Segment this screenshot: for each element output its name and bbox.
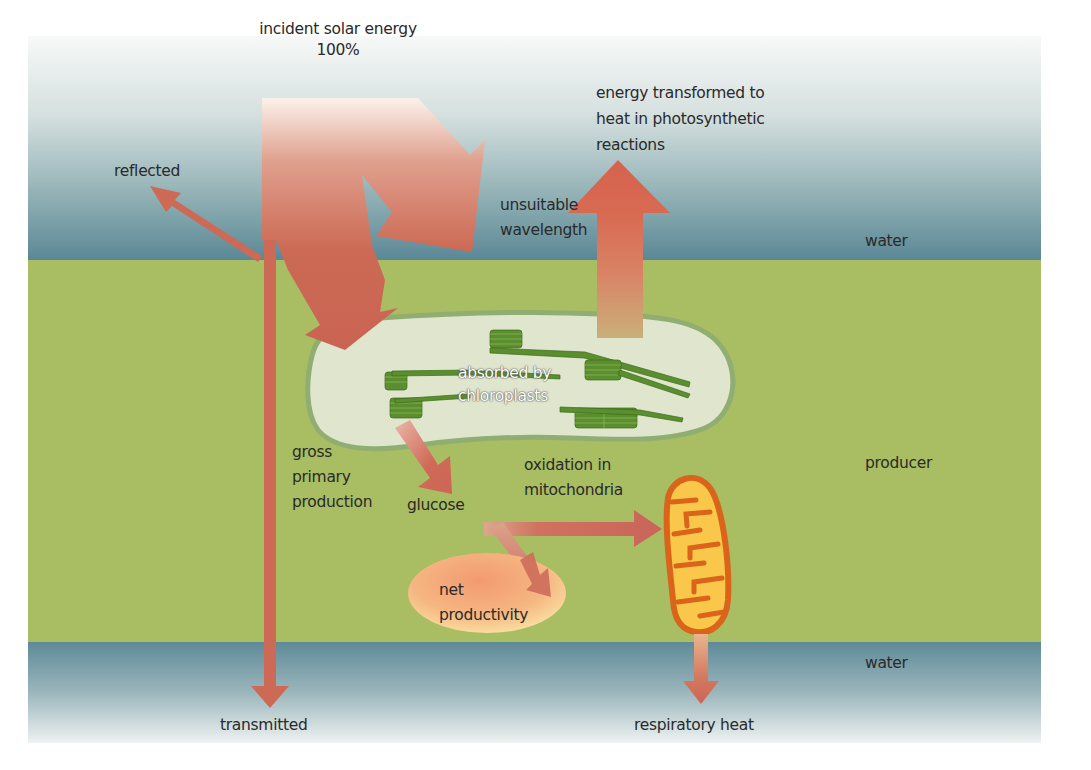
reflected-label: reflected (114, 162, 180, 181)
water-bottom-label: water (865, 654, 908, 673)
gross-label-line2: primary (292, 465, 372, 490)
glucose-label: glucose (407, 496, 465, 515)
oxidation-in-mitochondria-label: oxidation in mitochondria (524, 453, 623, 503)
transmitted-label: transmitted (220, 716, 307, 735)
absorbed-label-line2: chloroplasts (458, 385, 551, 408)
absorbed-by-chloroplasts-label: absorbed by chloroplasts (458, 362, 551, 408)
energy-flow-diagram: incident solar energy 100% reflected uns… (0, 0, 1091, 770)
unsuitable-wavelength-label: unsuitable wavelength (500, 193, 587, 243)
mitochondrion-illustration (667, 478, 729, 632)
net-label-line1: net (439, 578, 528, 603)
heat-label-line2: heat in photosynthetic (596, 106, 764, 132)
incident-label-line2: 100% (238, 41, 438, 60)
unsuitable-label-line1: unsuitable (500, 193, 587, 218)
oxidation-label-line1: oxidation in (524, 453, 623, 478)
incident-label-line1: incident solar energy (238, 20, 438, 39)
net-label-line2: productivity (439, 603, 528, 628)
net-productivity-label: net productivity (439, 578, 528, 628)
unsuitable-label-line2: wavelength (500, 218, 587, 243)
incident-solar-energy-label: incident solar energy 100% (238, 20, 438, 60)
absorbed-label-line1: absorbed by (458, 362, 551, 385)
oxidation-label-line2: mitochondria (524, 478, 623, 503)
producer-label: producer (865, 454, 932, 473)
gross-primary-production-label: gross primary production (292, 440, 372, 515)
heat-label-line1: energy transformed to (596, 80, 764, 106)
gross-label-line3: production (292, 490, 372, 515)
photosynthetic-heat-label: energy transformed to heat in photosynth… (596, 80, 764, 158)
respiratory-heat-label: respiratory heat (634, 716, 754, 735)
water-top-label: water (865, 232, 908, 251)
gross-label-line1: gross (292, 440, 372, 465)
heat-label-line3: reactions (596, 132, 764, 158)
